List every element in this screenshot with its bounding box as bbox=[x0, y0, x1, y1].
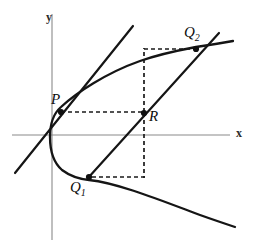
geometry-figure: y x P R Q1 Q2 bbox=[0, 0, 257, 252]
point-label-P-text: P bbox=[51, 91, 60, 107]
point-label-Q2: Q2 bbox=[184, 24, 200, 43]
x-axis-label: x bbox=[236, 126, 242, 141]
parabola-curve bbox=[50, 41, 235, 227]
point-P-marker bbox=[58, 109, 64, 115]
point-Q2-marker bbox=[193, 46, 199, 52]
point-Q1-marker bbox=[86, 174, 92, 180]
figure-canvas bbox=[0, 0, 257, 252]
point-label-Q2-text: Q bbox=[184, 24, 195, 40]
parabola-upper-branch bbox=[50, 41, 233, 137]
secant-line-Q1-Q2 bbox=[88, 33, 219, 178]
dashed-construction bbox=[61, 48, 197, 178]
point-label-Q1: Q1 bbox=[70, 179, 86, 198]
point-label-Q1-subscript: 1 bbox=[81, 187, 86, 198]
point-label-R-text: R bbox=[149, 108, 158, 124]
point-label-R: R bbox=[149, 108, 158, 125]
point-label-Q1-text: Q bbox=[70, 179, 81, 195]
tangent-line-at-P bbox=[15, 26, 133, 173]
point-label-Q2-subscript: 2 bbox=[195, 32, 200, 43]
point-label-P: P bbox=[51, 91, 60, 108]
point-R-marker bbox=[141, 110, 147, 116]
y-axis-label: y bbox=[46, 10, 52, 25]
